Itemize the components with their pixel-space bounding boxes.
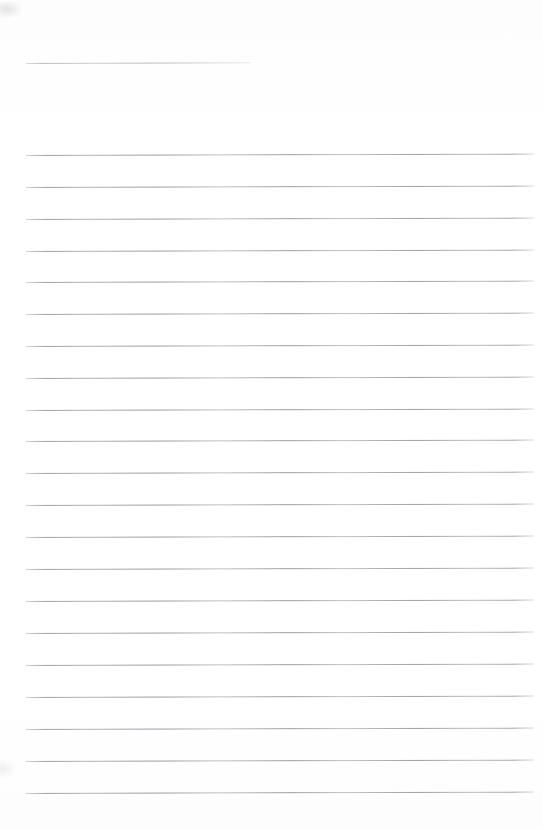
body-rule-5 (26, 281, 534, 283)
body-rule-18 (26, 696, 534, 698)
body-rule-3 (26, 218, 534, 220)
body-rule-2 (26, 186, 534, 188)
body-rule-11 (26, 472, 534, 474)
body-rule-8 (26, 377, 534, 379)
body-rule-7 (26, 345, 534, 347)
body-rule-19 (26, 728, 534, 730)
body-rule-13 (26, 536, 534, 538)
body-rule-1 (26, 154, 534, 156)
body-rule-20 (26, 760, 534, 762)
body-rule-16 (26, 632, 534, 634)
body-rule-15 (26, 600, 534, 602)
body-rule-9 (26, 409, 534, 411)
body-rule-12 (26, 504, 534, 506)
body-rule-6 (26, 313, 534, 315)
title-rule (26, 62, 251, 64)
body-rule-4 (26, 250, 534, 252)
body-rule-14 (26, 568, 534, 570)
body-rule-10 (26, 440, 534, 442)
body-rule-17 (26, 664, 534, 666)
notebook-page (0, 0, 543, 829)
ruled-lines-layer (0, 0, 543, 829)
body-rule-21 (26, 792, 534, 794)
